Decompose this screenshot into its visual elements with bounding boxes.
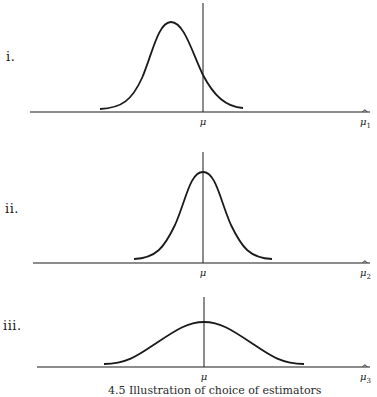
estimator-axis-label-1: ^μ1 <box>360 116 371 130</box>
panel-i <box>30 3 370 112</box>
panel-label-i: i. <box>6 49 15 64</box>
panel-ii <box>33 152 370 263</box>
panel-iii <box>37 297 370 367</box>
estimator-subscript: 2 <box>367 273 371 281</box>
estimator-subscript: 3 <box>367 377 371 385</box>
estimator-axis-label-3: ^μ3 <box>360 371 371 385</box>
mu-tick-label-2: μ <box>200 267 207 278</box>
panel-label-iii: iii. <box>3 318 22 333</box>
hat-accent: ^ <box>361 108 369 118</box>
mu-tick-label-1: μ <box>200 116 207 127</box>
hat-accent: ^ <box>361 363 369 373</box>
estimator-subscript: 1 <box>367 122 371 130</box>
panel-label-ii: ii. <box>5 201 19 216</box>
estimator-axis-label-2: ^μ2 <box>360 267 371 281</box>
figure-caption: 4.5 Illustration of choice of estimators <box>108 384 321 397</box>
density-curve-1 <box>100 22 243 109</box>
hat-accent: ^ <box>361 259 369 269</box>
mu-tick-label-3: μ <box>201 371 208 382</box>
